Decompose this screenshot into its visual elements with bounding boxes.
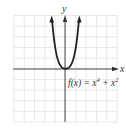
function-graph: x y f(x) = x4 + x2: [0, 0, 126, 132]
x-axis-arrow-icon: [112, 67, 119, 71]
y-axis-arrow-icon: [63, 15, 67, 22]
curve-arrow-left-icon: [49, 16, 54, 23]
x-axis-label: x: [119, 63, 125, 74]
function-label: f(x) = x4 + x2: [68, 76, 119, 89]
curve-arrow-right-icon: [77, 16, 82, 23]
y-axis-label: y: [61, 3, 67, 14]
